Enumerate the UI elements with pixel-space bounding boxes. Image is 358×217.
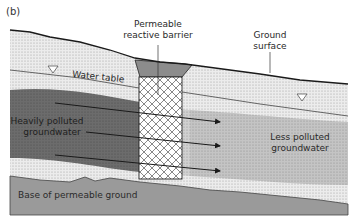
less-label-2: groundwater <box>271 143 329 153</box>
less-label-1: Less polluted <box>270 132 329 142</box>
panel-label: (b) <box>6 6 20 17</box>
base-label: Base of permeable ground <box>18 190 137 200</box>
groundwater-diagram: (b) Permeable reactive barrier Ground su… <box>0 0 358 217</box>
heavy-label-2: groundwater <box>23 127 81 137</box>
barrier-label-2: reactive barrier <box>123 30 193 40</box>
heavy-label-1: Heavily polluted <box>10 116 83 126</box>
ground-label-1: Ground <box>253 30 286 40</box>
barrier-label-1: Permeable <box>134 19 182 29</box>
ground-label-2: surface <box>253 41 287 51</box>
